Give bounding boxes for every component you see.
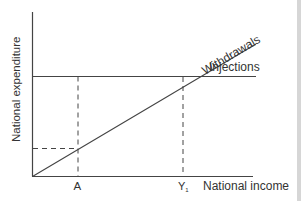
tick-y1-sub: 1 [185,187,189,193]
tick-label-y1: Y1 [178,180,189,193]
injections-label: Injections [209,60,260,74]
edge-bar [297,0,301,201]
tick-label-a: A [74,180,82,192]
x-axis-label: National income [203,179,289,193]
y-axis-label: National expenditure [10,37,22,143]
income-expenditure-diagram: Withdrawals Injections A Y1 National inc… [0,0,301,201]
